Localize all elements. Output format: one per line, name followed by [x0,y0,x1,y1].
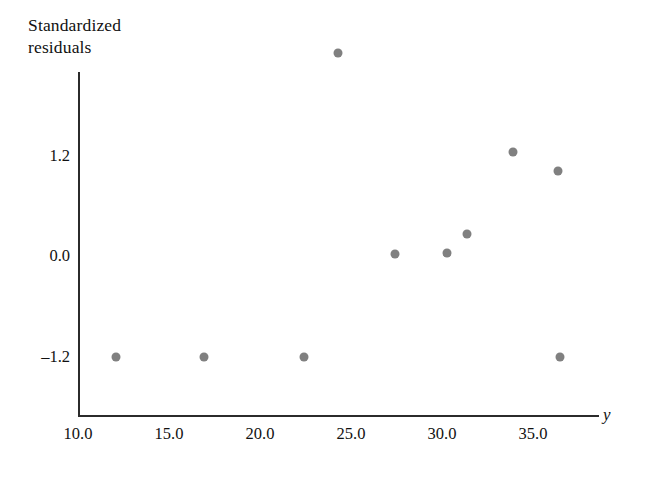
y-tick-label: –1.2 [24,347,70,367]
y-axis-line [78,72,80,417]
data-point [556,352,565,361]
data-point [199,352,208,361]
data-point [554,167,563,176]
x-tick-label: 20.0 [246,424,275,444]
data-point [463,230,472,239]
data-point [334,49,343,58]
x-tick-label: 10.0 [64,424,93,444]
data-point [390,250,399,259]
data-point [443,248,452,257]
x-tick-label: 15.0 [155,424,184,444]
x-axis-label: y [603,405,611,425]
x-tick-label: 35.0 [519,424,548,444]
y-tick-label: 1.2 [24,146,70,166]
data-point [299,352,308,361]
y-tick-label: 0.0 [24,246,70,266]
y-axis-title: Standardized residuals [28,14,121,58]
x-tick-label: 30.0 [428,424,457,444]
scatter-plot: Standardized residuals y 1.20.0–1.2 10.0… [0,0,648,482]
data-point [112,352,121,361]
data-point [508,148,517,157]
x-axis-line [78,415,599,417]
x-tick-label: 25.0 [337,424,366,444]
